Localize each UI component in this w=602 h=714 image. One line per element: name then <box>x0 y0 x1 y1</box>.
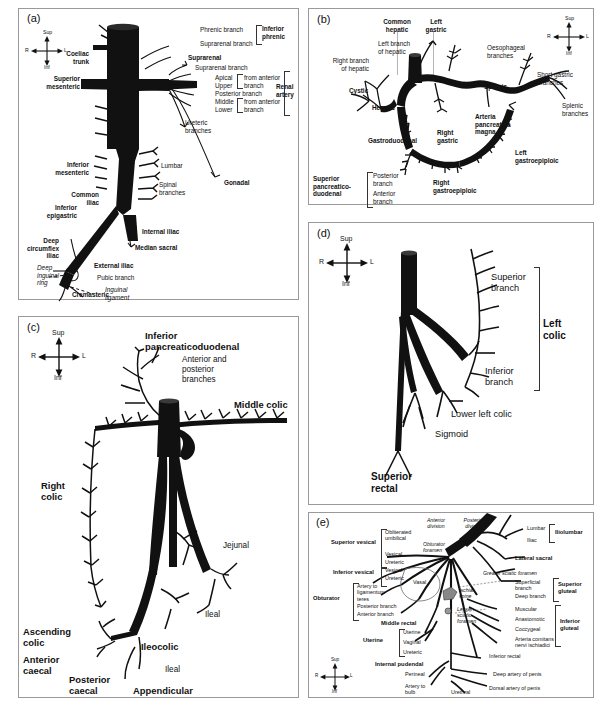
label-hepatic: Hepatic <box>372 104 395 112</box>
label-uterine: Uterine <box>363 637 383 644</box>
label-inferior-gluteal: Inferior gluteal <box>560 618 580 632</box>
label-phrenic-branch: Phrenic branch <box>200 26 243 34</box>
label-deep-artery-of-penis: Deep artery of penis <box>493 671 542 677</box>
label-anterior-branch-e: Anterior branch <box>357 611 394 617</box>
label-lateral-sacral: Lateral sacral <box>515 555 552 562</box>
label-splenic-branches: Splenic branches <box>562 102 588 117</box>
label-ischial-spine: Ischial spine <box>459 587 474 599</box>
label-deep-circumflex-iliac: Deep circumflex iliac <box>19 237 59 260</box>
label-superior-gluteal: Superior gluteal <box>558 581 582 595</box>
label-gastroduodenal: Gastroduodenal <box>368 137 417 145</box>
label-anterior-division: Anterior division <box>419 517 453 529</box>
label-gonadal: Gonadal <box>224 179 250 187</box>
label-vesical-1: Vesical <box>385 551 402 557</box>
label-lower-left-colic: Lower left colic <box>451 409 512 420</box>
label-posterior-branch-b: Posterior branch <box>373 172 399 187</box>
label-splenic: Splenic <box>484 83 507 91</box>
label-posterior-branch: Posterior branch <box>215 90 262 98</box>
label-perineal: Perineal <box>405 671 425 677</box>
label-arteria-comitans: Arteria comitans nervi ischiadici <box>515 636 554 649</box>
panel-e: (e) Sup Inf R L <box>308 512 594 698</box>
label-external-iliac: External iliac <box>94 262 133 270</box>
label-arteria-pancreatica-magna: Arteria pancreatica magna <box>475 113 511 136</box>
label-muscular: Muscular <box>515 606 537 612</box>
label-left-colic: Left colic <box>543 318 566 342</box>
label-left-branch-of-hepatic: Left branch of hepatic <box>378 40 410 55</box>
label-deep-branch: Deep branch <box>515 593 546 599</box>
label-internal-iliac: Internal iliac <box>142 228 179 236</box>
label-posterior-caecal: Posterior caecal <box>69 675 110 697</box>
label-cystic: Cystic <box>349 87 368 95</box>
label-coeliac-trunk: Coeliac trunk <box>37 50 89 65</box>
label-vesical-2: Vesical <box>385 567 402 573</box>
label-middle-rectal: Middle rectal <box>381 620 416 627</box>
label-right-gastroepiploic: Right gastroepiploic <box>433 179 477 194</box>
label-superior-pancreaticoduodenal: Superior pancreatico- duodenal <box>313 175 351 198</box>
label-superior-mesenteric: Superior mesenteric <box>25 75 80 90</box>
label-dorsal-artery-of-penis: Dorsal artery of penis <box>489 685 540 691</box>
label-vaginal: Vaginal <box>403 639 421 645</box>
label-posterior-branch-e: Posterior branch <box>357 603 397 609</box>
label-inferior-vesical: Inferior vesical <box>333 569 374 576</box>
bracket-iliolumbar <box>549 524 550 543</box>
label-anastomotic: Anastomotic <box>515 616 545 622</box>
label-anterior-posterior-branches: Anterior and posterior branches <box>182 355 227 385</box>
label-superior-vesical: Superior vesical <box>331 539 376 546</box>
label-inferior-epigastric: Inferior epigastric <box>21 204 77 219</box>
bracket-obturator <box>353 583 354 621</box>
label-inferior-phrenic: Inferior phrenic <box>262 25 285 40</box>
label-lesser-sciatic-foramen: Lesser sciatic foramen <box>457 606 476 624</box>
label-spinal-branches: Spinal branches <box>159 181 185 196</box>
label-ureteric-3: Ureteric <box>403 649 422 655</box>
panel-c: (c) Sup Inf R L <box>18 316 299 698</box>
label-lumbar-e: Lumbar <box>527 525 545 531</box>
label-obliterated-umbilical: Obliterated umbilical <box>385 529 411 542</box>
panel-d-vessels <box>309 223 595 506</box>
label-ascending-colic: Ascending colic <box>23 627 71 649</box>
panel-d: (d) Sup Inf R L <box>308 222 594 505</box>
label-left-gastroepiploic: Left gastroepiploic <box>515 149 559 164</box>
label-oesophageal-branches: Oesophageal branches <box>487 44 525 59</box>
bracket-inferior-phrenic <box>256 25 257 45</box>
label-suprarenal: Suprarenal <box>188 54 221 62</box>
label-vasal: Vasal <box>413 579 426 585</box>
bracket-left-colic <box>531 267 540 391</box>
label-inferior-rectal: Inferior rectal <box>489 653 520 659</box>
label-jejunal: Jejunal <box>223 541 249 551</box>
label-superior-branch: Superior branch <box>491 272 526 294</box>
bracket-inferior-gluteal <box>555 605 556 647</box>
bracket-apical-upper <box>237 74 238 89</box>
panel-b: (b) Sup Inf R L <box>308 8 594 205</box>
label-uterine-1: Uterine <box>403 629 420 635</box>
label-ileal-2: Ileal <box>165 665 180 675</box>
label-inferior-pancreaticoduodenal: Inferior pancreaticoduodenal <box>145 331 239 353</box>
label-iliolumbar: Iliolumbar <box>555 529 583 536</box>
label-internal-pudendal: Internal pudendal <box>375 661 423 668</box>
label-cremasteric: Cremasteric <box>72 291 109 299</box>
label-artery-to-bulb: Artery to bulb <box>405 683 425 696</box>
label-ileocolic: Ileocolic <box>141 641 179 652</box>
label-right-colic: Right colic <box>41 481 65 503</box>
label-ileal-1: Ileal <box>205 610 220 620</box>
bracket-uterine <box>399 629 400 657</box>
label-ureteric-1: Ureteric <box>385 559 404 565</box>
bracket-pancreaticoduodenal <box>367 172 368 208</box>
label-deep-inguinal-ring: Deep inguinal ring <box>37 264 59 287</box>
label-coccygeal: Coccygeal <box>515 626 540 632</box>
label-pubic-branch: Pubic branch <box>97 274 134 282</box>
bracket-superior-vesical <box>381 529 382 569</box>
label-common-hepatic: Common hepatic <box>371 18 423 33</box>
label-right-branch-of-hepatic: Right branch of hepatic <box>309 57 369 72</box>
label-appendicular: Appendicular <box>133 685 193 696</box>
label-middle-colic: Middle colic <box>234 399 288 410</box>
label-superior-rectal: Superior rectal <box>371 471 412 495</box>
label-iliac-e: Iliac <box>527 537 537 543</box>
label-ureteric-2: Ureteric <box>385 575 404 581</box>
label-inferior-mesenteric: Inferior mesenteric <box>33 161 89 176</box>
label-renal-artery: Renal artery <box>276 83 294 98</box>
label-obturator-foramen: Obturator foramen <box>423 541 445 553</box>
label-urethral: Urethral <box>451 689 470 695</box>
panel-a: (a) Sup Inf R L <box>18 8 299 300</box>
label-left-gastric: Left gastric <box>419 18 453 33</box>
label-suprarenal-branch-2: Suprarenal branch <box>195 64 248 72</box>
